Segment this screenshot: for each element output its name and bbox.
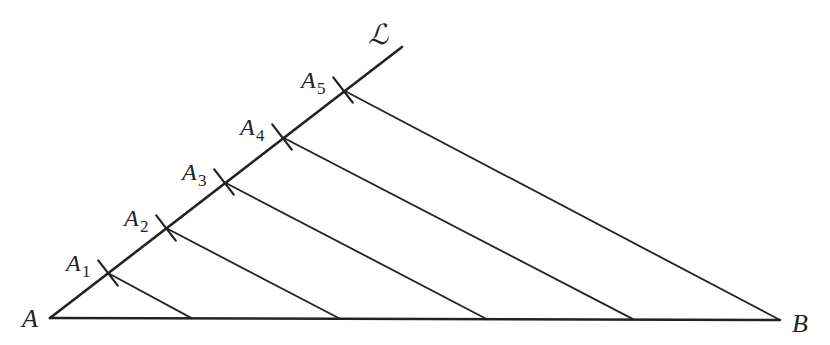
- label-a2: A: [122, 205, 139, 231]
- geometry-diagram: A1A2A3A4A5ABℒ: [0, 0, 830, 345]
- parallel-line-3: [224, 182, 487, 319]
- label-a5: A: [299, 67, 316, 93]
- label-a: A: [20, 304, 38, 333]
- label-a1: A: [64, 250, 81, 276]
- parallel-line-5: [343, 90, 780, 320]
- label-b: B: [792, 309, 808, 338]
- parallel-line-4: [282, 137, 634, 320]
- segment-ab: [50, 318, 780, 320]
- label-a1-subscript: 1: [82, 262, 91, 281]
- label-a4-subscript: 4: [256, 126, 265, 145]
- label-a3: A: [180, 159, 197, 185]
- label-line-l: ℒ: [368, 19, 389, 50]
- label-a2-subscript: 2: [140, 217, 149, 236]
- label-a3-subscript: 3: [198, 171, 207, 190]
- parallel-line-2: [166, 228, 340, 319]
- label-a4: A: [238, 114, 255, 140]
- parallel-line-1: [108, 273, 192, 318]
- label-a5-subscript: 5: [317, 79, 326, 98]
